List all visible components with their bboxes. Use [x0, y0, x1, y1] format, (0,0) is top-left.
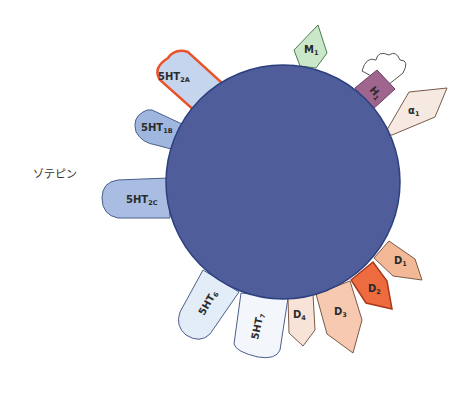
receptor-5ht7: 5HT7 [234, 293, 288, 358]
drug-core-circle [166, 65, 400, 299]
receptor-m1: M1 [294, 25, 327, 68]
receptor-alpha1: α1 [384, 88, 447, 135]
receptor-5ht2c: 5HT2C [102, 178, 170, 218]
receptor-d4: D4 [288, 294, 315, 346]
receptor-binding-diagram: 5HT2A 5HT1B 5HT2C 5HT6 5HT7 D4 D3 D2 D1 [0, 0, 474, 407]
